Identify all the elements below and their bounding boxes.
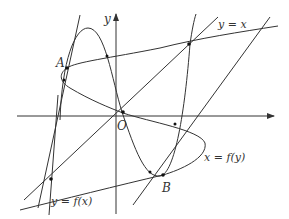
point-a-lower <box>63 79 66 82</box>
origin-label: O <box>117 119 127 133</box>
point-b-label: B <box>161 181 171 195</box>
point-b <box>161 173 165 177</box>
y-axis-label: y <box>103 12 111 26</box>
line-y-equals-x-label: y = x <box>217 18 247 31</box>
point-right-mid <box>174 123 177 126</box>
point-bottom-left <box>49 177 53 181</box>
diagram-canvas: y O A B y = x y = f(x) x = f(y) <box>0 0 289 219</box>
point-a <box>65 66 69 70</box>
cubic-label: y = f(x) <box>50 195 92 208</box>
point-a-label: A <box>55 56 65 70</box>
point-top-right <box>187 42 191 46</box>
curve-cubic-f-x <box>60 14 196 176</box>
tangent-line-left-1 <box>38 15 80 208</box>
point-bottom-mid <box>149 171 152 174</box>
point-top-mid <box>106 55 109 58</box>
point-origin <box>121 110 125 114</box>
inverse-label: x = f(y) <box>204 151 245 164</box>
